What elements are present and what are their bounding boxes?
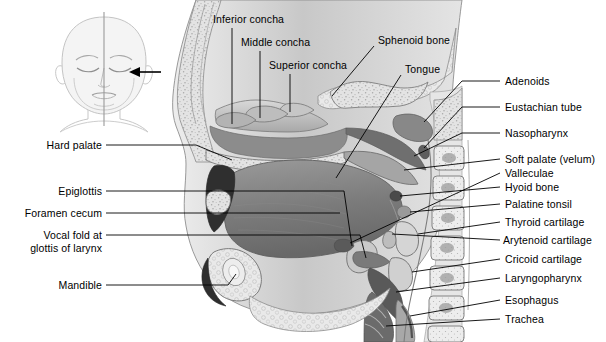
label-mandible: Mandible [0,279,102,292]
label-superior-concha: Superior concha [269,59,347,72]
palatine-tonsil-structure [397,206,411,218]
label-valleculae: Valleculae [505,167,554,180]
label-arytenoid-cartilage: Arytenoid cartilage [503,234,592,247]
label-esophagus: Esophagus [505,294,559,307]
label-epiglottis: Epiglottis [0,185,102,198]
label-hyoid-bone: Hyoid bone [505,181,559,194]
label-sphenoid-bone: Sphenoid bone [378,34,450,47]
label-hard-palate: Hard palate [0,139,102,152]
label-soft-palate: Soft palate (velum) [505,153,595,166]
sagittal-section [173,0,470,342]
label-trachea: Trachea [505,313,544,326]
label-eustachian-tube: Eustachian tube [505,101,582,114]
label-vocal-fold-line1: Vocal fold at [0,229,102,242]
label-nasopharynx: Nasopharynx [505,127,568,140]
label-thyroid-cartilage: Thyroid cartilage [505,216,584,229]
label-palatine-tonsil: Palatine tonsil [505,198,572,211]
label-inferior-concha: Inferior concha [213,13,284,26]
label-vocal-fold-line2: glottis of larynx [0,242,102,255]
label-tongue: Tongue [405,63,440,76]
label-adenoids: Adenoids [505,75,550,88]
label-cricoid-cartilage: Cricoid cartilage [505,253,582,266]
label-middle-concha: Middle concha [241,36,310,49]
anatomy-figure: Inferior concha Middle concha Superior c… [0,0,606,342]
label-foramen-cecum: Foramen cecum [0,207,102,220]
label-laryngopharynx: Laryngopharynx [505,272,582,285]
